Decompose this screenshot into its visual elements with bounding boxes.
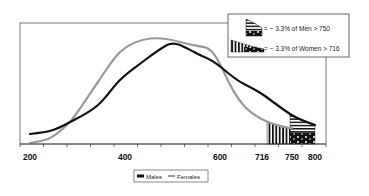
x-axis: 200 400 600 716 750 800 xyxy=(20,144,326,162)
females-legend-label: Females xyxy=(177,174,200,180)
men-annotation-label: = ~ 3.3% of Men > 750 xyxy=(264,25,330,32)
females-legend-swatch-icon xyxy=(168,175,175,177)
x-tick-label-600: 600 xyxy=(213,152,227,162)
males-legend-swatch-icon xyxy=(137,175,144,178)
x-tick-label-200: 200 xyxy=(23,152,37,162)
x-axis-ticks xyxy=(20,144,326,147)
women-annotation-label: = ~ 3.3% of Women > 716 xyxy=(264,45,340,52)
x-tick-label-716: 716 xyxy=(255,152,269,162)
legend: Males Females xyxy=(134,170,208,182)
x-tick-label-750: 750 xyxy=(285,152,299,162)
annotation-box: = ~ 3.3% of Men > 750 = ~ 3.3% of Women … xyxy=(228,14,349,57)
chart: 200 400 600 716 750 800 = ~ 3.3% of Men … xyxy=(0,0,369,196)
x-tick-label-400: 400 xyxy=(118,152,132,162)
males-legend-label: Males xyxy=(146,174,162,180)
x-tick-label-800: 800 xyxy=(308,152,322,162)
